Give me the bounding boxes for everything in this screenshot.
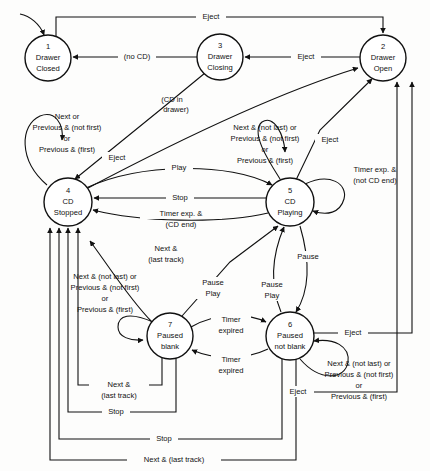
label-next-last-track-bottom-long: Next & (last track) [144, 455, 205, 464]
state-5-label-line1: CD [285, 197, 296, 206]
label-timer-not-cd-end-line1: Timer exp. & [354, 165, 397, 174]
edge-5-to-6-pause [296, 226, 307, 312]
label-timer-cd-end-line2: (CD end) [166, 220, 197, 229]
label-cd-in-drawer-line2: drawer) [163, 105, 189, 114]
label-next-last-track-line2: (last track) [148, 255, 184, 264]
label-loop5-line1: Next & (not last) or [233, 123, 297, 132]
label-timer-expired-7-to-6-line1: Timer [221, 315, 241, 324]
label-pause-play-6-line1: Pause [261, 280, 283, 289]
state-1-label-line1: Drawer [36, 53, 61, 62]
label-next-last-track-line1: Next & [155, 244, 178, 253]
label-loop7-line1: Next & (not last) or [73, 272, 137, 281]
state-7-label-line2: blank [161, 342, 179, 351]
state-3-drawer-closing[interactable]: 3 Drawer Closing [197, 34, 243, 80]
label-timer-expired-7-to-6-line2: expired [219, 326, 244, 335]
label-next-last-track-bottom-line2: (last track) [101, 391, 137, 400]
state-5-number: 5 [288, 186, 292, 195]
label-timer-expired-6-to-7-line2: expired [219, 366, 244, 375]
state-4-cd-stopped[interactable]: 4 CD Stopped [44, 178, 92, 226]
label-stop-5-to-4: Stop [172, 193, 188, 202]
label-loop4-line1: Next or [55, 112, 80, 121]
state-2-label-line2: Open [374, 64, 393, 73]
label-loop7-line3: or [102, 294, 109, 303]
label-loop6-line1: Next & (not last) or [327, 359, 391, 368]
state-1-label-line2: Closed [36, 64, 60, 73]
edge-4-to-2-eject [88, 68, 358, 188]
state-3-number: 3 [218, 41, 222, 50]
label-pause-5-to-6: Pause [297, 252, 319, 261]
label-loop6-line4: Previous & (first) [331, 392, 388, 401]
state-6-paused-not-blank[interactable]: 6 Paused not blank [266, 312, 314, 360]
label-eject-5-to-2: Eject [322, 135, 340, 144]
label-loop5-line4: Previous & (first) [237, 156, 294, 165]
state-6-label-line1: Paused [277, 331, 303, 340]
edge-6-to-2-eject-bottom [314, 82, 397, 392]
label-loop5-line3: or [262, 145, 269, 154]
state-1-drawer-closed[interactable]: 1 Drawer Closed [25, 35, 71, 81]
state-1-number: 1 [46, 42, 50, 51]
state-3-label-line1: Drawer [208, 52, 233, 61]
label-eject-6-to-2: Eject [345, 328, 363, 337]
label-timer-expired-6-to-7-line1: Timer [221, 355, 241, 364]
state-5-cd-playing[interactable]: 5 CD Playing [266, 178, 314, 226]
edge-initial-entry [20, 14, 44, 35]
state-2-label-line1: Drawer [371, 53, 396, 62]
state-6-label-line2: not blank [275, 342, 306, 351]
state-7-label-line1: Paused [157, 331, 183, 340]
label-loop6-line3: or [356, 381, 363, 390]
label-eject-bottom: Eject [290, 387, 308, 396]
label-cd-in-drawer-line1: (CD in [161, 95, 183, 104]
label-pause-play-7-line2: Play [206, 289, 221, 298]
label-no-cd: (no CD) [124, 52, 151, 61]
label-eject-4-to-2: Eject [109, 153, 127, 162]
state-4-label-line2: Stopped [54, 208, 82, 217]
label-stop-6-to-4: Stop [156, 434, 172, 443]
label-loop7-line2: Previous & (not first) [71, 283, 140, 292]
state-3-label-line2: Closing [207, 63, 232, 72]
state-7-number: 7 [168, 320, 172, 329]
label-timer-cd-end-line1: Timer exp. & [160, 209, 203, 218]
label-stop-7-to-4: Stop [108, 407, 124, 416]
label-loop4-line3: or [64, 134, 71, 143]
label-loop7-line4: Previous & (first) [77, 305, 134, 314]
state-2-drawer-open[interactable]: 2 Drawer Open [360, 35, 406, 81]
label-loop5-line2: Previous & (not first) [231, 134, 300, 143]
label-eject-3-to-2: Eject [298, 52, 316, 61]
label-pause-play-6-line2: Play [265, 291, 280, 300]
state-diagram-canvas: 1 Drawer Closed 3 Drawer Closing 2 Drawe… [0, 0, 430, 471]
label-timer-not-cd-end-line2: (not CD end) [353, 176, 397, 185]
state-2-number: 2 [381, 42, 385, 51]
state-4-label-line1: CD [63, 197, 74, 206]
label-play: Play [172, 163, 187, 172]
state-5-label-line2: Playing [278, 208, 303, 217]
label-pause-play-7-line1: Pause [202, 278, 224, 287]
state-6-number: 6 [288, 320, 292, 329]
label-loop6-line2: Previous & (not first) [325, 370, 394, 379]
label-loop4-line2: Previous & (not first) [33, 123, 102, 132]
state-4-number: 4 [66, 186, 70, 195]
cd-player-state-diagram: 1 Drawer Closed 3 Drawer Closing 2 Drawe… [0, 0, 430, 471]
label-loop4-line4: Previous & (first) [39, 145, 96, 154]
edge-7-to-5-pause-play [182, 226, 278, 316]
state-7-paused-blank[interactable]: 7 Paused blank [147, 313, 193, 359]
label-next-last-track-bottom-line1: Next & [108, 380, 131, 389]
label-eject-top: Eject [203, 12, 221, 21]
